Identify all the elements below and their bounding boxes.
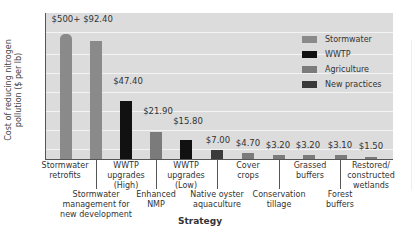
value-label: $500+ bbox=[52, 14, 81, 24]
bar-wwtp-high bbox=[120, 101, 132, 159]
category-label: WWTP upgrades (High) bbox=[107, 161, 145, 191]
legend-item-stormwater: Stormwater bbox=[302, 32, 382, 47]
legend-label: Agriculture bbox=[325, 65, 369, 74]
value-label: $15.80 bbox=[173, 116, 203, 126]
legend-item-new-practices: New practices bbox=[302, 77, 382, 92]
value-label: $92.40 bbox=[83, 14, 113, 24]
value-label: $3.20 bbox=[266, 140, 290, 150]
y-axis bbox=[45, 13, 46, 159]
category-label: Forest buffers bbox=[326, 190, 354, 210]
category-label: Conservation tillage bbox=[253, 190, 306, 210]
bar-stormwater-retrofits bbox=[60, 34, 72, 159]
value-label: $3.20 bbox=[296, 140, 320, 150]
bar-stormwater-new-dev bbox=[90, 41, 102, 159]
category-label: Enhanced NMP bbox=[136, 190, 176, 210]
legend-swatch bbox=[302, 36, 317, 43]
value-label: $1.50 bbox=[359, 141, 383, 151]
legend-label: New practices bbox=[325, 80, 382, 89]
legend-label: Stormwater bbox=[325, 35, 372, 44]
legend-label: WWTP bbox=[325, 50, 351, 59]
leader-line bbox=[96, 159, 97, 189]
bar-wwtp-low bbox=[180, 140, 192, 159]
category-label: Restored/ constructed wetlands bbox=[347, 161, 395, 191]
leader-line bbox=[340, 159, 341, 189]
y-axis-label: Cost of reducing nitrogen pollution ($ p… bbox=[4, 20, 24, 160]
value-label: $7.00 bbox=[206, 135, 230, 145]
legend-item-wwtp: WWTP bbox=[302, 47, 382, 62]
value-label: $4.70 bbox=[236, 138, 260, 148]
category-label: WWTP upgrades (Low) bbox=[167, 161, 205, 191]
leader-line bbox=[217, 159, 218, 189]
category-label: Grassed buffers bbox=[294, 161, 327, 181]
bar-enhanced-nmp bbox=[150, 132, 162, 159]
value-label: $21.90 bbox=[143, 106, 173, 116]
legend-swatch bbox=[302, 66, 317, 73]
divider bbox=[411, 40, 412, 190]
value-label: $47.40 bbox=[113, 76, 143, 86]
x-axis-label: Strategy bbox=[178, 216, 222, 226]
category-label: Cover crops bbox=[236, 161, 259, 181]
legend-item-agriculture: Agriculture bbox=[302, 62, 382, 77]
category-label: Native oyster aquaculture bbox=[190, 190, 244, 210]
category-label: Stormwater retrofits bbox=[42, 161, 89, 181]
category-label: Stormwater management for new developmen… bbox=[60, 190, 132, 220]
legend-swatch bbox=[302, 51, 317, 58]
leader-line bbox=[279, 159, 280, 189]
legend-swatch bbox=[302, 81, 317, 88]
leader-line bbox=[156, 159, 157, 189]
bar-oyster bbox=[211, 150, 223, 159]
legend: Stormwater WWTP Agriculture New practice… bbox=[302, 32, 382, 92]
value-label: $3.10 bbox=[328, 140, 352, 150]
